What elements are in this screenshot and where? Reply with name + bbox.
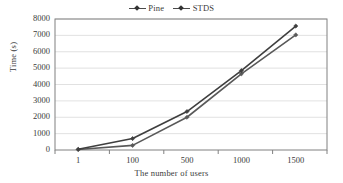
x-tick-label: 1500 [287, 156, 304, 165]
series-layer [76, 24, 298, 152]
x-axis-title: The number of users [0, 168, 343, 178]
x-tick-label: 1000 [233, 156, 250, 165]
x-tick-marks [55, 150, 327, 154]
x-tick-label: 1 [76, 156, 80, 165]
chart-container: Pine STDS 010002000300040005000600070008… [0, 0, 343, 183]
gridlines [55, 19, 327, 134]
x-tick-label: 100 [126, 156, 139, 165]
x-tick-label: 500 [181, 156, 194, 165]
